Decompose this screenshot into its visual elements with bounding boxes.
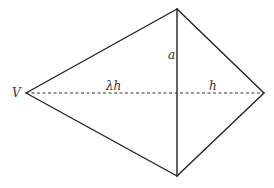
diagram-svg: V a λh h [0,0,274,188]
label-h: h [209,79,217,93]
edge-bottom-right [177,93,264,176]
edge-v-top [26,9,177,93]
label-v: V [12,86,22,100]
label-lambda-h: λh [105,79,121,93]
kite-diagram: V a λh h [0,0,274,188]
edge-top-right [177,9,264,93]
edge-v-bottom [26,93,177,176]
label-a: a [168,48,175,62]
